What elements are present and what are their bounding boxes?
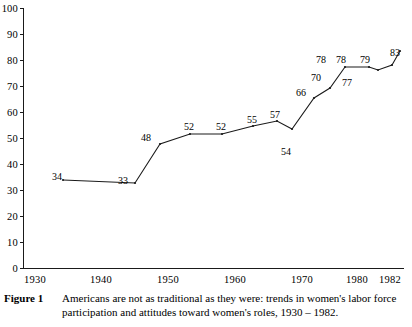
data-label-34: 34 xyxy=(52,172,62,182)
x-tick-label-1930: 1930 xyxy=(15,275,55,286)
data-label-77: 77 xyxy=(342,78,352,88)
data-label-52-a: 52 xyxy=(184,122,194,132)
x-tick-label-1960: 1960 xyxy=(215,275,255,286)
y-tick-label-100: 100 xyxy=(0,4,18,15)
line-chart: 100 90 80 70 60 50 40 30 20 10 0 1930 19… xyxy=(0,0,412,292)
x-tick-label-1950: 1950 xyxy=(148,275,188,286)
y-tick-label-90: 90 xyxy=(0,30,18,41)
chart-plot-area xyxy=(0,0,412,292)
figure-caption: Figure 1 Americans are not as traditiona… xyxy=(0,291,412,319)
data-point-markers xyxy=(62,50,401,184)
y-tick-label-0: 0 xyxy=(0,264,18,275)
y-tick-label-80: 80 xyxy=(0,56,18,67)
x-tick-label-1940: 1940 xyxy=(81,275,121,286)
figure-caption-text: Americans are not as traditional as they… xyxy=(62,291,412,319)
data-label-78-a: 78 xyxy=(316,55,326,65)
y-tick-label-40: 40 xyxy=(0,160,18,171)
data-label-48: 48 xyxy=(141,133,151,143)
data-label-83: 83 xyxy=(390,48,400,58)
figure-page: 100 90 80 70 60 50 40 30 20 10 0 1930 19… xyxy=(0,0,412,327)
data-label-55: 55 xyxy=(247,115,257,125)
data-label-33: 33 xyxy=(118,176,128,186)
data-label-70: 70 xyxy=(311,73,321,83)
data-label-66: 66 xyxy=(296,88,306,98)
data-label-52-b: 52 xyxy=(216,122,226,132)
figure-number-label: Figure 1 xyxy=(0,291,62,305)
y-tick-label-70: 70 xyxy=(0,82,18,93)
data-series-line xyxy=(63,51,400,183)
y-tick-label-50: 50 xyxy=(0,134,18,145)
data-label-57: 57 xyxy=(270,110,280,120)
y-tick-label-30: 30 xyxy=(0,186,18,197)
data-label-78-b: 78 xyxy=(336,55,346,65)
data-label-54: 54 xyxy=(281,147,291,157)
x-tick-label-1970: 1970 xyxy=(282,275,322,286)
y-tick-label-10: 10 xyxy=(0,238,18,249)
x-tick-label-1982: 1982 xyxy=(370,275,410,286)
data-label-79: 79 xyxy=(360,55,370,65)
y-tick-label-20: 20 xyxy=(0,212,18,223)
y-tick-label-60: 60 xyxy=(0,108,18,119)
